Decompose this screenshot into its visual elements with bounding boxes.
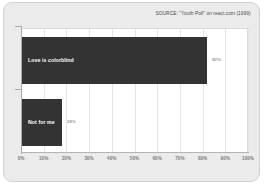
y-axis-line (21, 26, 22, 154)
x-axis-line (21, 152, 249, 153)
y-axis-tick (15, 26, 22, 27)
x-axis-tick-label: 0% (18, 156, 25, 161)
gridline (225, 29, 226, 152)
x-axis-tick-label: 30% (84, 156, 93, 161)
bar: Not for me (21, 99, 62, 146)
bar-category-label: Love is colorblind (28, 57, 74, 63)
x-axis-tick-label: 40% (107, 156, 116, 161)
x-axis-tick-label: 100% (242, 156, 254, 161)
bar-value-label: 18% (67, 119, 76, 124)
bar-category-label: Not for me (28, 119, 55, 125)
x-axis-tick-label: 10% (39, 156, 48, 161)
x-axis-tick-label: 90% (221, 156, 230, 161)
x-axis-tick-label: 80% (198, 156, 207, 161)
source-note: SOURCE: "Youth Poll" on react.com (1999) (156, 10, 251, 16)
gridline (248, 29, 249, 152)
x-axis-tick-label: 50% (130, 156, 139, 161)
plot-area: Love is colorblind82%Not for me18% (21, 28, 248, 152)
bar-value-label: 82% (212, 57, 221, 62)
x-axis-tick-label: 20% (62, 156, 71, 161)
chart-card: SOURCE: "Youth Poll" on react.com (1999)… (3, 2, 260, 182)
x-axis-tick-label: 60% (153, 156, 162, 161)
bar: Love is colorblind (21, 37, 207, 84)
x-axis-tick-label: 70% (175, 156, 184, 161)
y-axis-tick (15, 89, 22, 90)
